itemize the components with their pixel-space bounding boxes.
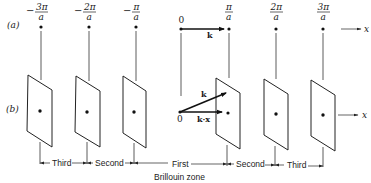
label-3pi-over-a: 3π a <box>317 2 330 22</box>
top-row-dots <box>39 25 324 30</box>
denominator: a <box>226 12 231 22</box>
x-label-top: x <box>364 24 369 34</box>
denominator: a <box>87 12 92 22</box>
panel-label-a: (a) <box>7 20 20 30</box>
k-label-bottom: k <box>201 89 207 99</box>
sign: − <box>123 5 131 16</box>
label-minus-3pi-over-a: − 3π a <box>26 2 49 22</box>
label-origin-top: 0 <box>179 15 185 25</box>
numerator: π <box>225 2 233 12</box>
sign: − <box>26 5 34 16</box>
numerator: 2π <box>270 2 284 12</box>
zone-label-first: First <box>172 159 189 169</box>
brillouin-zone-diagram: (a) (b) − 3π a − 2π a − π a 0 π a 2π a 3… <box>0 0 371 183</box>
plane-plus-2 <box>264 79 288 150</box>
denominator: a <box>134 12 139 22</box>
label-pi-over-a: π a <box>225 2 233 22</box>
origin-label-bottom: 0 <box>177 114 183 124</box>
label-2pi-over-a: 2π a <box>270 2 284 22</box>
zone-label-second-right: Second <box>236 159 265 169</box>
plane-minus-1 <box>123 76 146 148</box>
x-label-bottom: x <box>362 110 367 120</box>
plane-plus-3 <box>311 80 335 151</box>
denominator: a <box>321 12 326 22</box>
plane-minus-3 <box>27 75 52 147</box>
numerator: π <box>133 2 141 12</box>
kx-label-bottom: k·x <box>197 114 210 124</box>
label-minus-pi-over-a: − π a <box>123 2 141 22</box>
plane-minus-2 <box>75 76 100 147</box>
numerator: 3π <box>318 2 331 12</box>
numerator: 2π <box>83 2 97 12</box>
zone-label-third-right: Third <box>287 160 307 170</box>
numerator: 3π <box>36 2 49 12</box>
zone-caption: Brillouin zone <box>154 172 205 182</box>
zone-label-third-left: Third <box>52 158 72 168</box>
panel-label-b: (b) <box>6 104 19 114</box>
zone-label-second-left: Second <box>95 158 124 168</box>
k-label-top: k <box>207 30 213 40</box>
sign: − <box>74 5 82 16</box>
denominator: a <box>39 12 44 22</box>
label-minus-2pi-over-a: − 2π a <box>74 2 97 22</box>
denominator: a <box>274 12 279 22</box>
